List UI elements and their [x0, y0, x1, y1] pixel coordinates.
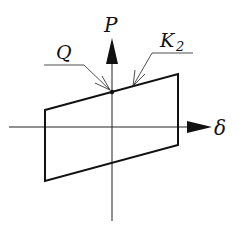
k2-label: K: [159, 29, 176, 51]
delta-axis-arrow-icon: [187, 121, 212, 133]
k2-subscript: 2: [175, 39, 184, 54]
hysteresis-diagram: P δ Q K 2: [0, 0, 239, 229]
k2-leader-line: [133, 53, 193, 86]
p-axis-label: P: [103, 13, 118, 37]
q-leader-line: [44, 65, 110, 90]
delta-axis-label: δ: [214, 116, 226, 140]
q-point: [110, 90, 114, 94]
p-axis-arrow-icon: [106, 38, 118, 64]
q-label: Q: [56, 41, 72, 63]
